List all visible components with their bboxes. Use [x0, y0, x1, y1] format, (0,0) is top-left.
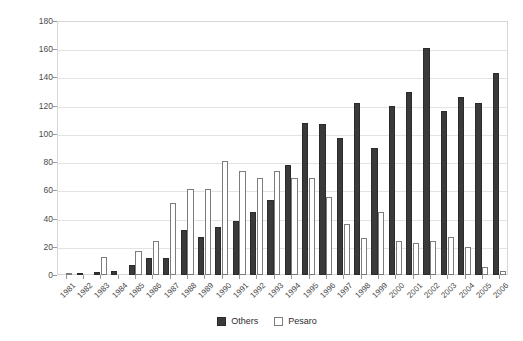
bar-pesaro-1996 [326, 197, 332, 275]
bar-pesaro-1992 [257, 178, 263, 275]
bar-others-2004 [458, 97, 464, 275]
bar-others-1991 [233, 221, 239, 275]
bar-group [161, 21, 178, 275]
bar-group [178, 21, 195, 275]
bar-pesaro-1991 [239, 171, 245, 275]
x-tick-mark [204, 275, 205, 279]
bar-pesaro-2000 [396, 241, 402, 275]
x-tick-mark [343, 275, 344, 279]
bar-others-1986 [146, 258, 152, 275]
x-tick-mark [118, 275, 119, 279]
x-tick-mark [395, 275, 396, 279]
bar-others-1996 [319, 124, 325, 275]
bar-pesaro-1995 [309, 178, 315, 275]
legend-entry-others: Others [217, 316, 258, 326]
bar-pesaro-1997 [344, 224, 350, 275]
bar-group [404, 21, 421, 275]
bar-group [439, 21, 456, 275]
bar-others-1993 [267, 200, 273, 275]
bar-group [317, 21, 334, 275]
x-tick-mark [482, 275, 483, 279]
legend-entry-pesaro: Pesaro [274, 316, 317, 326]
bar-others-1989 [198, 237, 204, 275]
bar-others-2001 [406, 92, 412, 275]
bar-pesaro-1990 [222, 161, 228, 275]
bar-others-2000 [389, 106, 395, 275]
bar-others-1994 [285, 165, 291, 275]
legend-label: Others [231, 316, 258, 326]
bar-pesaro-1987 [170, 203, 176, 275]
bar-pesaro-2003 [448, 237, 454, 275]
x-tick-mark [378, 275, 379, 279]
bar-pesaro-1983 [101, 257, 107, 275]
bar-group [352, 21, 369, 275]
x-tick-mark [152, 275, 153, 279]
bar-chart: Transplants / year 020406080100120140160… [0, 0, 523, 341]
bar-others-1982 [77, 273, 83, 275]
bar-group [74, 21, 91, 275]
bar-pesaro-1999 [378, 212, 384, 276]
bar-others-2006 [493, 73, 499, 275]
x-tick-mark [413, 275, 414, 279]
x-tick-mark [100, 275, 101, 279]
x-tick-mark [499, 275, 500, 279]
bar-others-1992 [250, 212, 256, 276]
x-tick-mark [66, 275, 67, 279]
bar-group [421, 21, 438, 275]
bar-group [92, 21, 109, 275]
bar-group [248, 21, 265, 275]
x-tick-mark [465, 275, 466, 279]
x-tick-mark [274, 275, 275, 279]
bar-others-1984 [111, 271, 117, 275]
y-tick-label: 40 [23, 214, 53, 224]
bar-group [300, 21, 317, 275]
bar-others-1983 [94, 272, 100, 275]
x-tick-mark [326, 275, 327, 279]
bar-group [230, 21, 247, 275]
y-tick-label: 60 [23, 185, 53, 195]
bar-others-1997 [337, 138, 343, 275]
x-tick-mark [291, 275, 292, 279]
bar-pesaro-2004 [465, 247, 471, 275]
x-tick-mark [135, 275, 136, 279]
bar-group [109, 21, 126, 275]
x-tick-mark [447, 275, 448, 279]
bar-group [126, 21, 143, 275]
legend-swatch-icon [217, 317, 226, 326]
bar-pesaro-1989 [205, 189, 211, 275]
x-tick-mark [83, 275, 84, 279]
chart-legend: OthersPesaro [191, 311, 343, 331]
bar-group [196, 21, 213, 275]
bar-pesaro-1994 [291, 178, 297, 275]
bar-pesaro-1998 [361, 238, 367, 275]
bar-group [57, 21, 74, 275]
bar-others-2002 [423, 48, 429, 275]
x-tick-mark [430, 275, 431, 279]
bar-others-1999 [371, 148, 377, 275]
legend-label: Pesaro [288, 316, 317, 326]
bar-pesaro-2005 [482, 267, 488, 275]
x-tick-mark [256, 275, 257, 279]
y-tick-label: 160 [23, 44, 53, 54]
x-tick-mark [222, 275, 223, 279]
y-tick-label: 80 [23, 157, 53, 167]
bar-group [213, 21, 230, 275]
y-tick-label: 20 [23, 242, 53, 252]
bar-group [387, 21, 404, 275]
bar-group [335, 21, 352, 275]
bar-others-2005 [475, 103, 481, 275]
y-tick-mark [53, 275, 57, 276]
bar-pesaro-1981 [66, 273, 72, 275]
bar-group [456, 21, 473, 275]
bar-group [265, 21, 282, 275]
bar-pesaro-1985 [135, 251, 141, 275]
x-tick-mark [239, 275, 240, 279]
bar-pesaro-2001 [413, 243, 419, 275]
bar-group [369, 21, 386, 275]
bar-group [144, 21, 161, 275]
bar-pesaro-2006 [500, 271, 506, 275]
x-tick-mark [309, 275, 310, 279]
bar-others-1995 [302, 123, 308, 275]
bar-group [491, 21, 508, 275]
bar-others-1987 [163, 258, 169, 275]
